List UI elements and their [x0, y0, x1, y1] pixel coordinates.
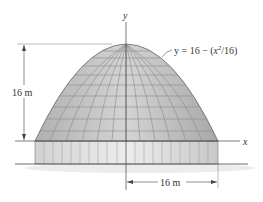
parabolic-dome: [0, 44, 263, 141]
dome-diagram: x y y = 16 − (x2/16) 16 m 16 m: [0, 0, 263, 202]
ground-shadow: [25, 163, 255, 173]
equation-label: y = 16 − (x2/16): [174, 44, 237, 57]
height-label: 16 m: [12, 87, 33, 98]
y-axis-label: y: [122, 10, 128, 21]
equation-leader: [162, 50, 172, 57]
dome-base: [35, 141, 218, 164]
x-axis-label: x: [242, 136, 248, 147]
radius-label: 16 m: [160, 177, 181, 188]
